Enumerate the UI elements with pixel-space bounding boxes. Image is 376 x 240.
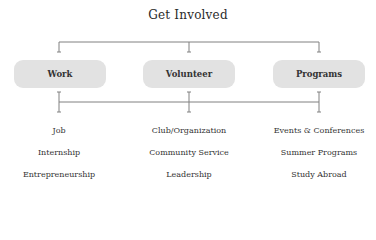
category-box-work: Work bbox=[14, 60, 106, 88]
programs-items-list: Events & Conferences Summer Programs Stu… bbox=[254, 125, 376, 190]
category-box-programs: Programs bbox=[273, 60, 365, 88]
list-item: Club/Organization bbox=[124, 125, 254, 147]
list-item: Community Service bbox=[124, 147, 254, 169]
work-items-list: Job Internship Entrepreneurship bbox=[0, 125, 124, 190]
list-item: Events & Conferences bbox=[254, 125, 376, 147]
list-item: Entrepreneurship bbox=[0, 169, 124, 190]
list-item: Job bbox=[0, 125, 124, 147]
category-label: Volunteer bbox=[166, 69, 212, 79]
category-label: Work bbox=[48, 69, 73, 79]
category-box-volunteer: Volunteer bbox=[143, 60, 235, 88]
list-item: Summer Programs bbox=[254, 147, 376, 169]
category-label: Programs bbox=[296, 69, 342, 79]
list-item: Internship bbox=[0, 147, 124, 169]
list-item: Study Abroad bbox=[254, 169, 376, 190]
list-item: Leadership bbox=[124, 169, 254, 190]
volunteer-items-list: Club/Organization Community Service Lead… bbox=[124, 125, 254, 190]
